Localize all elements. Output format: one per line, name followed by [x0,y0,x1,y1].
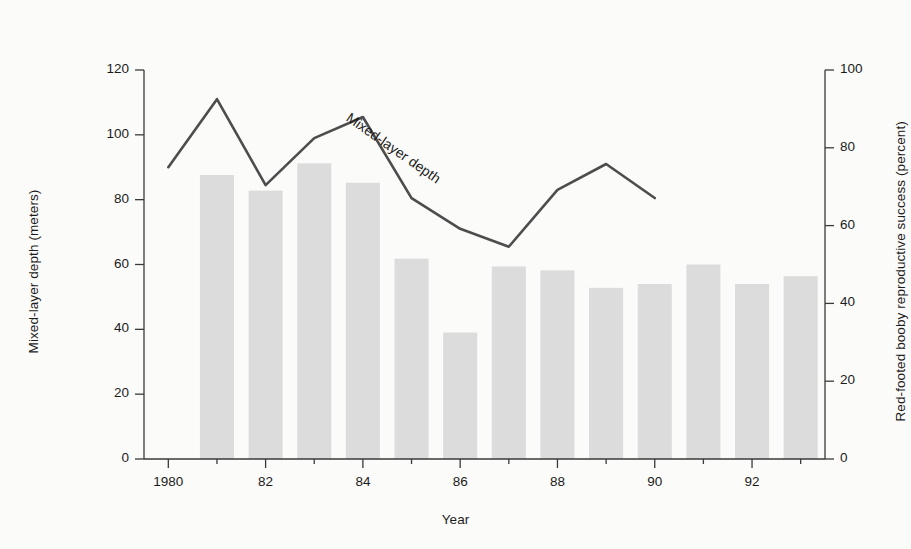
y-tick-label-right: 60 [840,217,886,232]
y-tick-label-left: 60 [83,256,129,271]
x-tick-label: 86 [430,474,490,489]
bar [540,270,574,459]
bar [589,288,623,459]
bar [200,175,234,459]
bar [735,284,769,459]
line-series-group [168,99,654,247]
x-tick-label: 92 [722,474,782,489]
bar [443,333,477,459]
x-tick-label: 84 [333,474,393,489]
y-tick-label-left: 20 [83,385,129,400]
bar [249,191,283,459]
x-tick-label: 1980 [138,474,198,489]
y-tick-label-left: 100 [83,126,129,141]
plot-area [0,0,911,549]
x-tick-label: 90 [625,474,685,489]
y-tick-label-right: 20 [840,372,886,387]
mixed-layer-depth-line [168,99,654,247]
y-tick-label-left: 40 [83,320,129,335]
bar [784,276,818,459]
bar [492,266,526,459]
y-tick-label-right: 100 [840,61,886,76]
bar [686,265,720,460]
y-tick-label-right: 0 [840,450,886,465]
bar [395,259,429,459]
y-tick-label-right: 40 [840,294,886,309]
y-tick-label-left: 80 [83,191,129,206]
axes-group [135,70,834,468]
bar [346,183,380,459]
y-tick-label-left: 120 [83,61,129,76]
chart-figure: Mixed-layer depth (meters) Red-footed bo… [0,0,911,549]
x-tick-label: 82 [236,474,296,489]
bar [297,163,331,459]
y-tick-label-left: 0 [83,450,129,465]
bar-series-group [200,163,818,459]
y-tick-label-right: 80 [840,139,886,154]
bar [638,284,672,459]
x-tick-label: 88 [527,474,587,489]
